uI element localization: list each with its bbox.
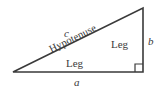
triangle-shape-svg <box>0 0 164 96</box>
right-angle-marker-icon <box>135 64 143 72</box>
leg-bottom-text-label: Leg <box>66 58 83 69</box>
leg-right-text-label: Leg <box>111 39 128 50</box>
leg-right-variable-label: b <box>148 36 154 47</box>
leg-bottom-variable-label: a <box>74 77 80 88</box>
right-triangle-diagram: c Hypotenuse Leg a Leg b <box>0 0 164 96</box>
